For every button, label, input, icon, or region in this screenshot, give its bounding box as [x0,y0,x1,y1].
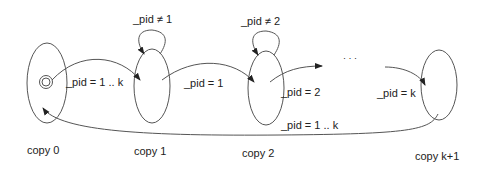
edge-ellipsis-copyk1 [385,67,425,85]
state-label-copy2: copy 2 [242,148,274,159]
edge-label-copy2-ellipsis: _pid = 2 [281,87,320,98]
state-label-copyk1: copy k+1 [415,151,459,162]
state-copy1 [134,49,170,123]
edge-copy2-ellipsis [270,66,322,82]
edge-label-copy0-copy1: _pid = 1 .. k [66,77,123,88]
state-copy0 [27,43,67,123]
self-loop-label-copy1: _pid ≠ 1 [133,14,172,25]
self-loop-copy1 [139,30,166,54]
state-copyk1 [421,50,457,120]
state-label-copy1: copy 1 [134,146,166,157]
edge-copyk1-copy0 [43,108,438,135]
self-loop-label-copy2: _pid ≠ 2 [241,16,280,27]
edge-label-ellipsis-copyk1: _pid = k [377,88,416,99]
edge-label-copyk1-copy0: _pid = 1 .. k [281,120,338,131]
state-label-copy0: copy 0 [27,145,59,156]
state-diagram: _pid ≠ 1 _pid ≠ 2 _pid = 1 .. k _pid = 1… [0,0,482,172]
ellipsis: · · · [343,54,357,63]
state-copy2 [248,51,284,125]
edge-label-copy1-copy2: _pid = 1 [184,78,223,89]
initial-state-marker [40,76,53,89]
